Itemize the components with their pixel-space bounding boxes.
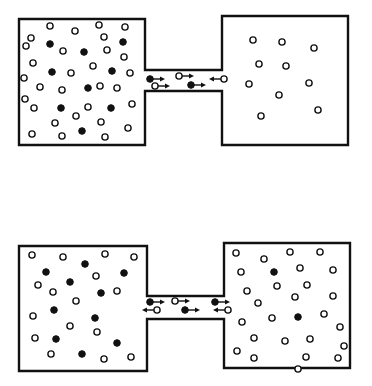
filled-particle [182,307,189,314]
filled-particle [92,315,99,322]
open-particle [31,105,37,111]
open-particle [60,254,66,260]
open-particle [48,351,54,357]
open-particle [154,307,160,313]
filled-particle [108,105,115,112]
open-particle [315,107,321,113]
moving-particle-right [176,73,194,79]
right-chamber-bottom [233,249,347,372]
open-particle [297,265,303,271]
open-particle [239,319,245,325]
diagram-stage [0,0,372,386]
open-particle [233,250,239,256]
open-particle [90,63,96,69]
motion-arrow-head-icon [160,300,165,305]
open-particle [258,113,264,119]
open-particle [30,60,36,66]
motion-arrow-head-icon [160,77,165,82]
open-particle [311,45,317,51]
open-particle [234,348,240,354]
open-particle [261,256,267,262]
moving-particle-right [188,82,206,89]
open-particle [306,80,312,86]
open-particle [127,70,133,76]
open-particle [131,254,137,260]
open-particle [152,83,158,89]
effusion-diagram [0,0,372,386]
open-particle [30,313,36,319]
open-particle [172,298,178,304]
open-particle [251,335,257,341]
moving-particle-right [172,298,190,304]
open-particle [85,104,91,110]
open-particle [52,120,58,126]
open-particle [238,269,244,275]
motion-arrow-head-icon [225,300,230,305]
open-particle [96,22,102,28]
motion-arrow-head-icon [189,74,194,79]
filled-particle [85,85,92,92]
open-particle [129,101,135,107]
open-particle [274,283,280,289]
filled-particle [147,76,154,83]
filled-particle [47,41,54,48]
open-particle [304,282,310,288]
open-particle [32,335,38,341]
open-particle [255,300,261,306]
left-chamber-top [21,22,135,140]
open-particle [104,47,110,53]
filled-particle [114,340,121,347]
open-particle [317,249,323,255]
open-particle [287,249,293,255]
motion-arrow-head-icon [195,308,200,313]
open-particle [244,288,250,294]
open-particle [330,293,336,299]
open-particle [93,273,99,279]
open-particle [68,70,74,76]
open-particle [114,288,120,294]
filled-particle [188,82,195,89]
open-particle [307,336,313,342]
moving-particle-right [147,76,165,83]
motion-arrow-head-icon [209,77,214,82]
open-particle [29,131,35,137]
open-particle [282,338,288,344]
moving-particle-left [209,76,227,82]
open-particle [221,76,227,82]
open-particle [256,61,262,67]
open-particle [101,34,107,40]
container-outline-top [19,16,348,145]
open-particle [28,35,34,41]
open-particle [94,329,100,335]
moving-particle-left [142,307,160,313]
open-particle [269,315,275,321]
filled-particle [120,39,127,46]
open-particle [114,85,120,91]
open-particle [29,252,35,258]
open-particle [250,37,256,43]
open-particle [330,267,336,273]
open-particle [335,355,341,361]
open-particle [59,87,65,93]
filled-particle [49,69,56,76]
open-particle [283,63,289,69]
open-particle [279,39,285,45]
motion-arrow-head-icon [213,308,218,313]
moving-particle-left [213,307,231,313]
panel-later-state [19,243,350,372]
right-chamber-top [246,37,321,119]
moving-particle-right [152,83,170,89]
open-particle [276,92,282,98]
open-particle [122,24,128,30]
open-particle [337,324,343,330]
open-particle [73,298,79,304]
motion-arrow-head-icon [142,308,147,313]
open-particle [47,23,53,29]
filled-particle [51,307,58,314]
filled-particle [98,290,105,297]
filled-particle [81,49,88,56]
filled-particle [147,299,154,306]
motion-arrow-head-icon [201,83,206,88]
channel-bottom [142,298,231,313]
open-particle [246,81,252,87]
